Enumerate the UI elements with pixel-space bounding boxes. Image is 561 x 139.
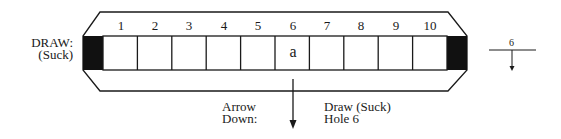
hole-number-9: 9	[379, 18, 413, 34]
hole-number-3: 3	[172, 18, 206, 34]
hole-number-8: 8	[344, 18, 378, 34]
hole-number-4: 4	[207, 18, 241, 34]
hole-number-2: 2	[138, 18, 172, 34]
draw-label-line2: (Suck)	[28, 49, 73, 61]
right-end-block	[447, 36, 467, 70]
arrow-down-icon	[290, 79, 297, 129]
hole-number-1: 1	[104, 18, 138, 34]
arrow-meaning: Draw (Suck) Hole 6	[324, 101, 391, 125]
arrow-label: Arrow Down:	[222, 101, 257, 125]
hole-6-mark: a	[276, 43, 310, 61]
hole-number-7: 7	[310, 18, 344, 34]
draw-notation-icon	[489, 50, 536, 71]
hole-grid	[103, 36, 447, 70]
hole-number-5: 5	[241, 18, 275, 34]
arrow-label-line2: Down:	[222, 113, 257, 125]
draw-label: DRAW: (Suck)	[28, 37, 73, 61]
notation-number: 6	[509, 37, 514, 48]
hole-number-10: 10	[413, 18, 447, 34]
arrow-meaning-line2: Hole 6	[324, 113, 391, 125]
left-end-block	[83, 36, 103, 70]
hole-number-6: 6	[276, 18, 310, 34]
